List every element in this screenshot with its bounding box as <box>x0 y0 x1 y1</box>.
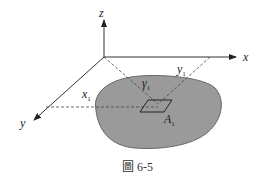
x1-label: x1 <box>81 87 91 103</box>
figure-diagram: z x y x1 y1 γ1 A1 圖 6-5 <box>0 0 266 183</box>
x-axis-label: x <box>242 50 249 64</box>
z-axis-label: z <box>98 6 104 20</box>
y1-label: y1 <box>176 62 186 78</box>
y-axis <box>34 57 104 120</box>
y-axis-label: y <box>19 116 26 130</box>
figure-caption: 圖 6-5 <box>122 160 153 174</box>
